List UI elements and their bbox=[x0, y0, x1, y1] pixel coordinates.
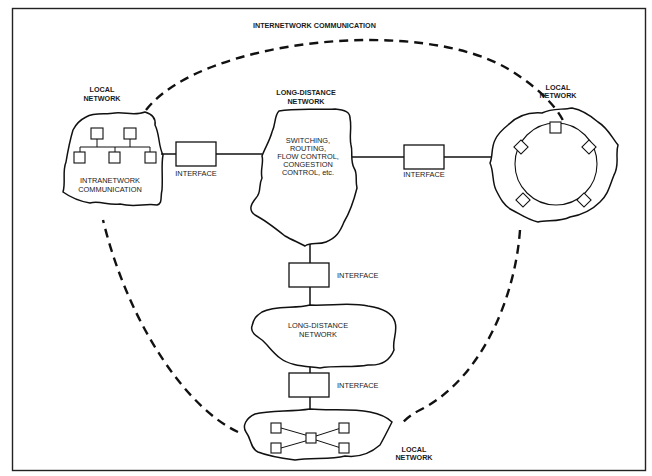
local-network-bottom-label-2: NETWORK bbox=[395, 453, 433, 462]
long-distance-middle-inner-2: NETWORK bbox=[299, 330, 337, 339]
network-node-icon bbox=[516, 193, 530, 207]
interface-box-lower-vertical bbox=[289, 373, 329, 397]
network-node-icon bbox=[514, 140, 528, 154]
long-distance-top-cloud bbox=[251, 109, 357, 246]
figure-frame bbox=[13, 9, 646, 471]
network-node-icon bbox=[124, 128, 136, 139]
long-distance-top-label-2: NETWORK bbox=[287, 97, 325, 106]
network-node-icon bbox=[271, 423, 281, 433]
star-link bbox=[281, 440, 309, 448]
local-network-left-label-2: NETWORK bbox=[83, 94, 121, 103]
network-node-icon bbox=[271, 443, 281, 453]
interface-lower-vertical-label: INTERFACE bbox=[337, 381, 379, 390]
network-node-icon bbox=[306, 433, 316, 443]
local-network-right-label-2: NETWORK bbox=[539, 91, 577, 100]
network-node-icon bbox=[582, 140, 596, 154]
network-node-icon bbox=[109, 152, 120, 163]
interface-upper-vertical-label: INTERFACE bbox=[337, 271, 379, 280]
diagram-title: INTERNETWORK COMMUNICATION bbox=[253, 21, 376, 30]
network-node-icon bbox=[577, 193, 591, 207]
long-distance-top-inner-5: CONTROL, etc. bbox=[282, 168, 334, 177]
local-network-right: LOCAL NETWORK bbox=[490, 83, 618, 222]
interface-left-label: INTERFACE bbox=[175, 169, 217, 178]
star-link bbox=[316, 428, 341, 436]
long-distance-network-middle: LONG-DISTANCE NETWORK bbox=[252, 304, 396, 368]
long-distance-top-label-1: LONG-DISTANCE bbox=[276, 88, 336, 97]
local-network-left-inner-2: COMMUNICATION bbox=[78, 185, 142, 194]
interface-right-label: INTERFACE bbox=[403, 170, 445, 179]
network-node-icon bbox=[91, 128, 103, 139]
interface-box-left bbox=[176, 142, 216, 166]
star-link bbox=[281, 428, 309, 436]
local-network-left: LOCAL NETWORK INTRANETWORK COMMUNICATION bbox=[63, 85, 163, 206]
local-network-bottom-cloud bbox=[244, 409, 392, 460]
internetwork-boundary bbox=[103, 40, 565, 432]
local-network-bottom: LOCAL NETWORK bbox=[244, 409, 433, 462]
interface-box-right bbox=[404, 145, 444, 169]
network-node-icon bbox=[74, 152, 85, 163]
long-distance-middle-inner-1: LONG-DISTANCE bbox=[288, 321, 348, 330]
ring-topology bbox=[515, 123, 597, 205]
star-link bbox=[316, 440, 341, 448]
local-network-left-inner-1: INTRANETWORK bbox=[80, 176, 140, 185]
network-node-icon bbox=[339, 443, 349, 453]
network-node-icon bbox=[550, 122, 561, 133]
long-distance-network-top: LONG-DISTANCE NETWORK SWITCHING, ROUTING… bbox=[251, 88, 357, 246]
interface-box-upper-vertical bbox=[289, 263, 329, 287]
local-network-left-label-1: LOCAL bbox=[90, 85, 115, 94]
network-node-icon bbox=[145, 152, 156, 163]
network-node-icon bbox=[339, 423, 349, 433]
internetwork-diagram: INTERNETWORK COMMUNICATION LOCAL NETWORK… bbox=[0, 0, 652, 476]
